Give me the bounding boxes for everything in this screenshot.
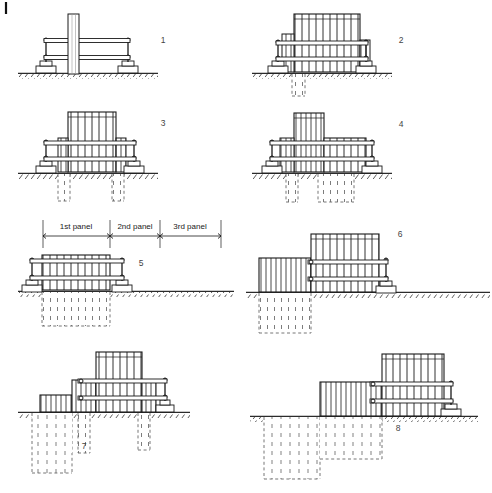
dimension-label-2nd-panel: 2nd panel bbox=[117, 222, 152, 231]
ground-line bbox=[252, 74, 392, 80]
panel-number-7: 7 bbox=[82, 441, 87, 451]
stop-end-tube bbox=[68, 14, 79, 74]
ground-line bbox=[18, 174, 158, 180]
cast-panel-left bbox=[259, 258, 311, 333]
trench-below-ground bbox=[292, 74, 305, 96]
dimension-label-1st-panel: 1st panel bbox=[60, 222, 93, 231]
panel-number-2: 2 bbox=[399, 35, 404, 45]
trench-below-ground bbox=[286, 174, 354, 202]
figure-sheet: 1 bbox=[0, 0, 492, 493]
ground-line bbox=[18, 74, 158, 80]
panel-number-1: 1 bbox=[161, 35, 166, 45]
panel-number-6: 6 bbox=[398, 229, 403, 239]
panel-number-4: 4 bbox=[399, 119, 404, 129]
panel-number-5: 5 bbox=[139, 258, 144, 268]
excavated-panel-below-ground bbox=[42, 292, 110, 326]
dimension-label-3rd-panel: 3rd panel bbox=[173, 222, 207, 231]
panel-number-8: 8 bbox=[396, 423, 401, 433]
diaphragm-wall-sequence-diagram: 1 bbox=[0, 0, 492, 493]
panel-number-3: 3 bbox=[161, 118, 166, 128]
cast-panel-step-low bbox=[40, 395, 72, 412]
